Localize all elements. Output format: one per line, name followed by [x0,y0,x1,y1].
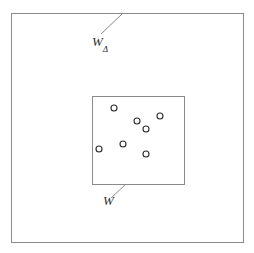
point-marker [157,113,163,119]
point-marker [111,105,117,111]
outer-window-label-subscript: Δ [103,44,108,54]
figure-canvas: WΔ W [0,0,254,253]
outer-window-label: WΔ [92,33,108,52]
inner-window-label: W [103,192,114,208]
point-pattern-group [96,105,163,157]
point-marker [134,118,140,124]
point-marker [96,146,102,152]
leader-line-outer [101,14,122,34]
diagram-svg [0,0,254,253]
outer-window-label-base: W [92,34,103,49]
inner-window-rect [93,97,185,185]
outer-window-rect [12,14,244,243]
point-marker [143,126,149,132]
point-marker [120,141,126,147]
point-marker [143,151,149,157]
inner-window-label-base: W [103,193,114,208]
